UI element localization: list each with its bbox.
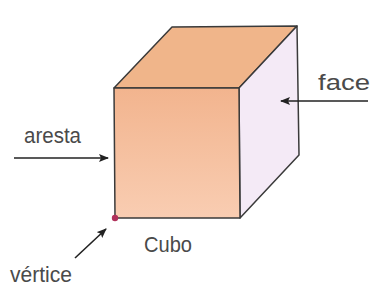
cubo-label: Cubo (144, 232, 192, 257)
aresta-label: aresta (24, 123, 82, 148)
cube-diagram: face aresta vértice Cubo (0, 0, 382, 296)
vertice-arrow (75, 229, 106, 258)
vertex-dot (112, 215, 118, 221)
front-face (114, 88, 240, 218)
face-label: face (318, 70, 370, 95)
vertice-label: vértice (10, 262, 72, 287)
cube-figure: face aresta vértice Cubo (0, 0, 382, 296)
